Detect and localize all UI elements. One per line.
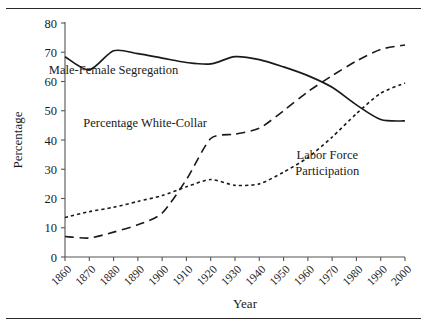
y-axis-ticks: 01020304050607080 (45, 17, 66, 265)
series-annotation: Participation (295, 164, 360, 178)
x-axis-tick-label: 1860 (49, 263, 74, 288)
y-axis-tick-label: 40 (45, 134, 58, 148)
y-axis-tick-label: 50 (45, 104, 58, 118)
y-axis-tick-label: 0 (51, 251, 57, 265)
y-axis-tick-label: 30 (45, 163, 58, 177)
series-annotation: Percentage White-Collar (83, 116, 208, 130)
series-line-male-female-segregation (65, 50, 405, 121)
x-axis-tick-label: 1980 (340, 263, 365, 288)
figure-container: 01020304050607080 1860187018801890190019… (0, 0, 427, 331)
x-axis-tick-label: 1970 (316, 263, 341, 288)
x-axis-tick-label: 1950 (267, 263, 292, 288)
y-axis-tick-label: 20 (45, 192, 58, 206)
x-axis-tick-label: 1920 (194, 263, 219, 288)
x-axis-tick-label: 1880 (97, 263, 122, 288)
x-axis-tick-label: 1940 (243, 263, 268, 288)
x-axis-tick-label: 1960 (292, 263, 317, 288)
series-annotation: Male-Female Segregation (49, 63, 179, 77)
x-axis-tick-label: 1890 (122, 263, 147, 288)
chart-plot-area: 01020304050607080 1860187018801890190019… (0, 0, 427, 331)
x-axis-tick-label: 1990 (364, 263, 389, 288)
x-axis-ticks: 1860187018801890190019101920193019401950… (49, 257, 414, 288)
y-axis-tick-label: 70 (45, 46, 58, 60)
x-axis-title: Year (233, 296, 258, 311)
x-axis-tick-label: 1900 (146, 263, 171, 288)
line-chart-svg: 01020304050607080 1860187018801890190019… (0, 0, 427, 331)
series-annotation: Labor Force (297, 148, 359, 162)
x-axis-tick-label: 1930 (219, 263, 244, 288)
x-axis-tick-label: 1870 (73, 263, 98, 288)
y-axis-title: Percentage (10, 111, 25, 168)
x-axis-tick-label: 1910 (170, 263, 195, 288)
y-axis-tick-label: 10 (45, 221, 58, 235)
x-axis-tick-label: 2000 (389, 263, 414, 288)
y-axis-tick-label: 80 (45, 17, 58, 31)
series-annotations-group: Male-Female SegregationPercentage White-… (49, 63, 360, 178)
